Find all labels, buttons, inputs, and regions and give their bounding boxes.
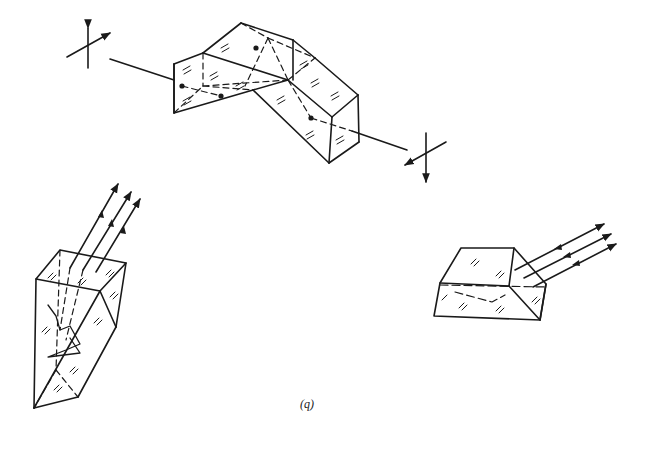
- diagram-canvas: [0, 0, 646, 454]
- polarization-cross-exit-icon: [405, 133, 446, 182]
- roof-prism: [34, 184, 140, 408]
- figure-caption: (q): [300, 397, 314, 412]
- polarization-cross-entry-icon: [67, 28, 110, 68]
- double-prism-assembly: [110, 23, 407, 163]
- trapezoid-prism: [434, 224, 616, 320]
